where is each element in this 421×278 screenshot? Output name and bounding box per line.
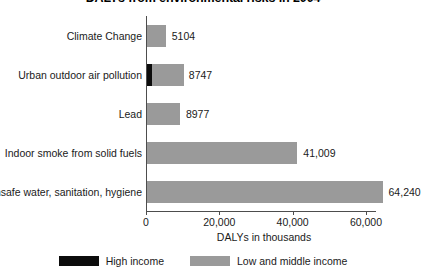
- bar-row: Indoor smoke from solid fuels41,009: [146, 142, 382, 164]
- x-tick-label: 0: [143, 216, 149, 228]
- category-label: Urban outdoor air pollution: [18, 69, 142, 81]
- legend-swatch-icon: [190, 256, 230, 266]
- bar-segment-low-middle-income: [152, 64, 184, 86]
- x-tick-mark: [293, 211, 294, 215]
- category-label: Climate Change: [67, 30, 142, 42]
- bar-total-value-label: 8747: [189, 69, 212, 81]
- x-tick-label: 40,000: [277, 216, 309, 228]
- chart-legend: High incomeLow and middle income: [0, 255, 406, 267]
- bar-segment-low-middle-income: [147, 103, 180, 125]
- bar-total-value-label: 8977: [186, 108, 209, 120]
- legend-label: High income: [106, 255, 164, 267]
- legend-item: High income: [59, 255, 164, 267]
- legend-label: Low and middle income: [237, 255, 347, 267]
- x-tick-mark: [146, 211, 147, 215]
- x-tick-label: 60,000: [350, 216, 382, 228]
- bar-stack: [147, 103, 180, 125]
- category-label: Unsafe water, sanitation, hygiene: [0, 186, 142, 198]
- category-label: Indoor smoke from solid fuels: [5, 147, 142, 159]
- x-axis-title: DALYs in thousands: [146, 231, 382, 243]
- category-label: Lead: [119, 108, 142, 120]
- bar-row: Urban outdoor air pollution10298747: [146, 64, 382, 86]
- bar-stack: [147, 181, 383, 203]
- bar-segment-low-middle-income: [147, 181, 383, 203]
- bar-stack: 1029: [147, 64, 184, 86]
- bar-row: Lead8977: [146, 103, 382, 125]
- bar-segment-low-middle-income: [147, 25, 166, 47]
- bar-segment-low-middle-income: [147, 142, 297, 164]
- bar-stack: [147, 25, 166, 47]
- legend-item: Low and middle income: [190, 255, 347, 267]
- x-tick-label: 20,000: [203, 216, 235, 228]
- bar-total-value-label: 5104: [172, 30, 195, 42]
- chart-title: DALYs from environmental risks in 2004: [0, 0, 406, 5]
- legend-swatch-icon: [59, 256, 99, 266]
- x-tick-mark: [219, 211, 220, 215]
- plot-area: Climate Change5104Urban outdoor air poll…: [146, 16, 382, 211]
- bar-stack: [147, 142, 297, 164]
- x-axis-line: [146, 211, 376, 212]
- bar-total-value-label: 41,009: [303, 147, 335, 159]
- bar-row: Climate Change5104: [146, 25, 382, 47]
- bar-total-value-label: 64,240: [389, 186, 421, 198]
- x-tick-mark: [366, 211, 367, 215]
- bar-row: Unsafe water, sanitation, hygiene64,240: [146, 181, 382, 203]
